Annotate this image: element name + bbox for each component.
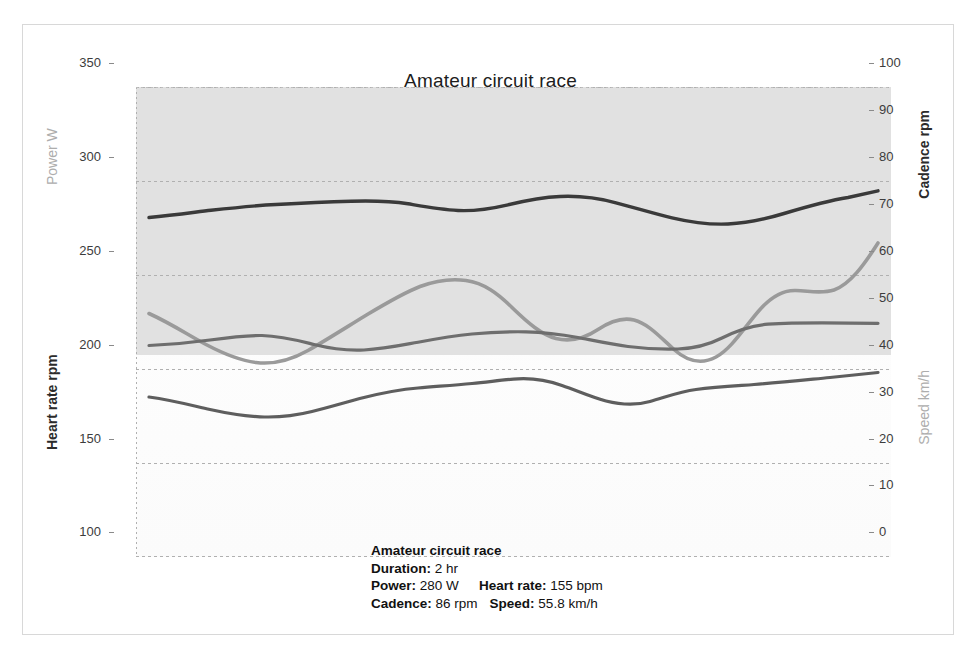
right-tick-label-0: 0 bbox=[879, 525, 919, 538]
left-tick-mark bbox=[109, 345, 114, 346]
caption-cadence-speed-row: Cadence: 86 rpmSpeed: 55.8 km/h bbox=[371, 595, 603, 613]
caption-cadence-label: Cadence: bbox=[371, 596, 432, 611]
right-tick-mark bbox=[869, 439, 874, 440]
plot-canvas bbox=[136, 87, 891, 557]
caption-speed-value: 55.8 km/h bbox=[538, 596, 597, 611]
summary-caption: Amateur circuit race Duration: 2 hr Powe… bbox=[371, 542, 603, 612]
chart-title: Amateur circuit race bbox=[113, 70, 868, 92]
right-tick-label-20: 20 bbox=[879, 432, 919, 445]
left-tick-label-350: 350 bbox=[57, 56, 101, 69]
caption-duration-row: Duration: 2 hr bbox=[371, 560, 603, 578]
right-tick-label-90: 90 bbox=[879, 103, 919, 116]
left-tick-mark bbox=[109, 157, 114, 158]
right-tick-label-50: 50 bbox=[879, 291, 919, 304]
caption-heart-rate-label: Heart rate: bbox=[479, 578, 547, 593]
caption-power-label: Power: bbox=[371, 578, 416, 593]
caption-speed-label: Speed: bbox=[490, 596, 535, 611]
right-tick-mark bbox=[869, 157, 874, 158]
caption-heart-rate-value: 155 bpm bbox=[550, 578, 603, 593]
left-tick-label-250: 250 bbox=[57, 244, 101, 257]
left-axis-title-heart-rate: Heart rate rpm bbox=[45, 354, 59, 450]
right-tick-label-70: 70 bbox=[879, 197, 919, 210]
right-tick-label-30: 30 bbox=[879, 385, 919, 398]
caption-duration-value: 2 hr bbox=[435, 561, 458, 576]
right-tick-mark bbox=[869, 63, 874, 64]
right-tick-label-80: 80 bbox=[879, 150, 919, 163]
caption-power-cell: Power: 280 W bbox=[371, 577, 467, 595]
shaded-band bbox=[136, 87, 891, 355]
right-tick-mark bbox=[869, 345, 874, 346]
left-tick-label-150: 150 bbox=[57, 432, 101, 445]
plot-area bbox=[136, 87, 891, 557]
left-tick-mark bbox=[109, 63, 114, 64]
left-tick-label-100: 100 bbox=[57, 525, 101, 538]
right-tick-mark bbox=[869, 532, 874, 533]
right-tick-mark bbox=[869, 110, 874, 111]
right-tick-label-10: 10 bbox=[879, 478, 919, 491]
right-tick-mark bbox=[869, 485, 874, 486]
right-tick-label-40: 40 bbox=[879, 338, 919, 351]
right-tick-mark bbox=[869, 204, 874, 205]
right-tick-mark bbox=[869, 298, 874, 299]
left-tick-label-300: 300 bbox=[57, 150, 101, 163]
caption-title: Amateur circuit race bbox=[371, 543, 502, 558]
left-tick-mark bbox=[109, 532, 114, 533]
left-axis-title-power: Power W bbox=[45, 128, 59, 185]
caption-title-row: Amateur circuit race bbox=[371, 542, 603, 560]
caption-cadence-value: 86 rpm bbox=[436, 596, 478, 611]
right-axis-title-speed: Speed km/h bbox=[917, 370, 931, 445]
right-tick-mark bbox=[869, 392, 874, 393]
caption-cadence-cell: Cadence: 86 rpm bbox=[371, 595, 478, 613]
right-tick-mark bbox=[869, 251, 874, 252]
caption-duration-label: Duration: bbox=[371, 561, 431, 576]
right-tick-label-100: 100 bbox=[879, 56, 919, 69]
right-axis-title-cadence: Cadence rpm bbox=[917, 110, 931, 199]
caption-power-value: 280 W bbox=[420, 578, 459, 593]
left-tick-mark bbox=[109, 439, 114, 440]
left-tick-label-200: 200 bbox=[57, 338, 101, 351]
caption-power-heart-row: Power: 280 WHeart rate: 155 bpm bbox=[371, 577, 603, 595]
left-tick-mark bbox=[109, 251, 114, 252]
chart-figure: 350 300 250 200 150 100 Power W Heart ra… bbox=[0, 0, 977, 659]
right-tick-label-60: 60 bbox=[879, 244, 919, 257]
